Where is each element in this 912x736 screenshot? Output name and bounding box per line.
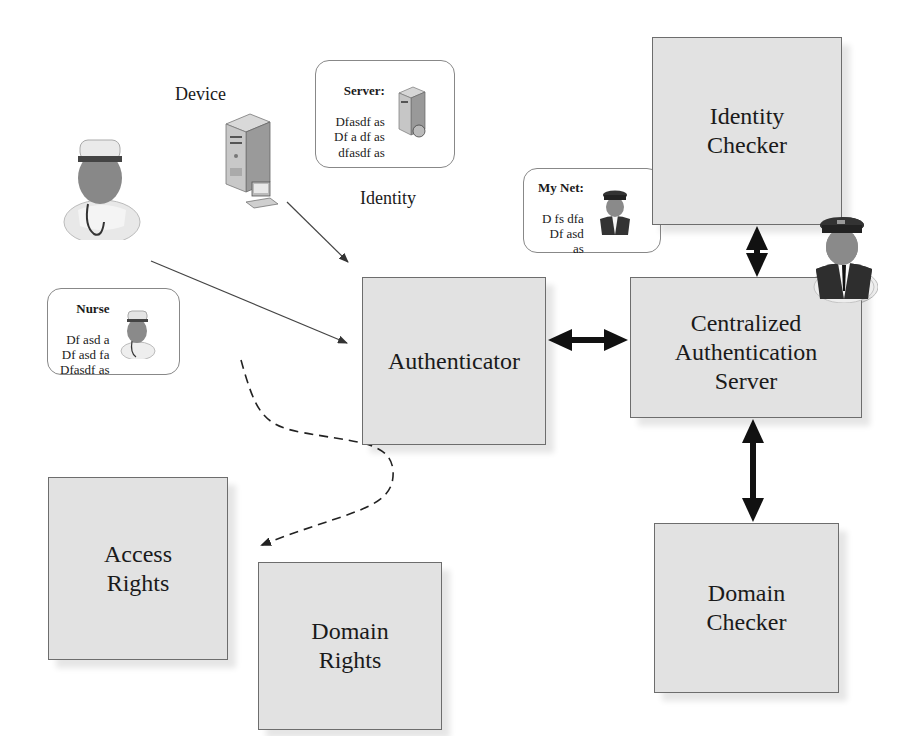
nurse-icon: [119, 305, 157, 359]
mynet-card-title: My Net:: [538, 180, 584, 195]
nurse-card-title: Nurse: [60, 301, 109, 316]
double-arrow-central-server-domain-checker: [742, 419, 764, 522]
domain-checker-label: Domain Checker: [707, 579, 787, 637]
nurse-card-lines: Df asd a Df asd fa Dfasdf as: [60, 332, 109, 378]
central-authentication-server-label: Centralized Authentication Server: [675, 309, 818, 395]
identity-label: Identity: [360, 188, 416, 209]
domain-checker-box[interactable]: Domain Checker: [654, 523, 839, 693]
mynet-card-text: My Net: D fs dfa Df asd as: [538, 165, 584, 257]
domain-rights-label: Domain Rights: [311, 617, 388, 675]
conductor-overlay-icon: [808, 207, 878, 303]
nurse-info-card[interactable]: Nurse Df asd a Df asd fa Dfasdf as: [47, 288, 180, 375]
double-arrow-identity-checker-central-server: [746, 226, 768, 277]
server-info-card[interactable]: Server: Dfasdf as Df a df as dfasdf as: [315, 60, 455, 168]
nurse-card-text: Nurse Df asd a Df asd fa Dfasdf as: [60, 286, 109, 378]
access-rights-label: Access Rights: [104, 540, 172, 598]
access-rights-box[interactable]: Access Rights: [48, 477, 228, 660]
arrow-nurse-to-authenticator: [151, 261, 347, 343]
authenticator-label: Authenticator: [388, 347, 520, 376]
conductor-icon: [596, 185, 634, 237]
server-card-title: Server:: [334, 83, 385, 98]
device-server-icon[interactable]: [220, 112, 282, 214]
authenticator-box[interactable]: Authenticator: [362, 277, 546, 445]
double-arrow-authenticator-central-server: [548, 329, 628, 351]
identity-checker-box[interactable]: Identity Checker: [652, 37, 842, 225]
server-card-lines: Dfasdf as Df a df as dfasdf as: [334, 114, 385, 160]
mynet-card-lines: D fs dfa Df asd as: [542, 211, 584, 257]
mynet-info-card[interactable]: My Net: D fs dfa Df asd as: [523, 168, 661, 253]
server-icon: [395, 85, 429, 143]
server-card-text: Server: Dfasdf as Df a df as dfasdf as: [334, 68, 385, 160]
nurse-avatar-icon[interactable]: [58, 130, 146, 240]
identity-checker-label: Identity Checker: [707, 102, 787, 160]
domain-rights-box[interactable]: Domain Rights: [258, 562, 442, 730]
arrow-device-to-authenticator: [287, 202, 348, 262]
device-label: Device: [175, 84, 226, 105]
